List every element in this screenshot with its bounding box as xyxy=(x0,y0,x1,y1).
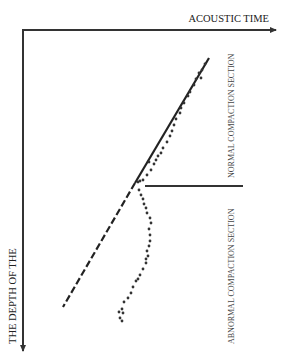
normal-data-point xyxy=(137,181,140,184)
normal-section-label: NORMAL COMPACTION SECTION xyxy=(227,53,236,178)
normal-data-point xyxy=(171,130,174,133)
abnormal-data-point xyxy=(137,278,140,281)
abnormal-data-point xyxy=(140,194,143,197)
abnormal-data-point xyxy=(135,280,138,283)
abnormal-data-point xyxy=(138,189,141,192)
abnormal-data-point xyxy=(122,312,125,315)
abnormal-data-point xyxy=(119,317,122,320)
abnormal-data-point xyxy=(150,222,153,225)
abnormal-data-point xyxy=(149,240,152,243)
normal-data-point xyxy=(195,78,198,81)
normal-data-point xyxy=(142,179,145,182)
normal-data-point xyxy=(155,159,158,162)
abnormal-data-point xyxy=(145,262,148,265)
normal-data-point xyxy=(180,107,183,110)
normal-data-point xyxy=(162,147,165,150)
abnormal-data-point xyxy=(123,301,126,304)
normal-trend-line xyxy=(135,58,209,183)
abnormal-data-point xyxy=(143,203,146,206)
normal-data-point xyxy=(153,163,156,166)
abnormal-data-point xyxy=(147,255,150,258)
normal-data-point xyxy=(175,118,178,121)
normal-data-point xyxy=(173,124,176,127)
normal-data-point xyxy=(200,77,203,80)
normal-data-point xyxy=(204,63,207,66)
abnormal-data-point xyxy=(142,198,145,201)
x-axis-label: ACOUSTIC TIME xyxy=(188,13,269,24)
normal-data-point xyxy=(150,169,153,172)
abnormal-data-point xyxy=(121,308,124,311)
abnormal-data-point xyxy=(130,292,133,295)
abnormal-data-point xyxy=(149,234,152,237)
normal-data-point xyxy=(157,155,160,158)
normal-data-point xyxy=(193,84,196,87)
abnormal-data-point xyxy=(121,320,124,323)
normal-data-point xyxy=(146,174,149,177)
normal-data-point xyxy=(201,69,204,72)
normal-data-point xyxy=(179,112,182,115)
normal-data-point xyxy=(160,152,163,155)
abnormal-data-point xyxy=(118,311,121,314)
abnormal-data-point xyxy=(148,245,151,248)
abnormal-data-point xyxy=(142,268,145,271)
extrapolated-trend-line xyxy=(63,183,135,307)
abnormal-section-label: ABNORMAL COMPACTION SECTION xyxy=(227,208,236,344)
normal-data-point xyxy=(183,102,186,105)
normal-data-point xyxy=(198,72,201,75)
abnormal-data-point xyxy=(146,212,149,215)
abnormal-data-point xyxy=(149,217,152,220)
abnormal-compaction-points xyxy=(118,189,153,323)
abnormal-data-point xyxy=(148,228,151,231)
normal-data-point xyxy=(187,95,190,98)
abnormal-data-point xyxy=(127,297,130,300)
normal-data-point xyxy=(169,135,172,138)
abnormal-data-point xyxy=(146,250,149,253)
abnormal-data-point xyxy=(145,258,148,261)
abnormal-data-point xyxy=(145,207,148,210)
normal-data-point xyxy=(166,141,169,144)
normal-data-point xyxy=(148,161,151,164)
abnormal-data-point xyxy=(132,286,135,289)
y-axis-label: THE DEPTH OF THE xyxy=(7,248,18,344)
abnormal-data-point xyxy=(139,274,142,277)
compaction-trend-diagram: ACOUSTIC TIME THE DEPTH OF THE NORMAL CO… xyxy=(0,0,283,359)
normal-data-point xyxy=(189,91,192,94)
